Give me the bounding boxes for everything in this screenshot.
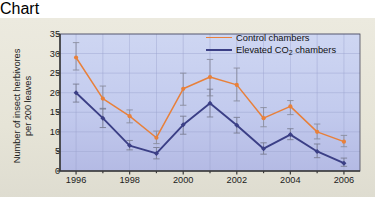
legend-label-elevated-subscript: 2: [289, 49, 293, 56]
x-axis-tick-label: 2004: [280, 175, 300, 185]
x-axis-tick-label: 1996: [66, 175, 86, 185]
legend-label-control: Control chambers: [236, 33, 309, 43]
legend-swatch-elevated-icon: [206, 49, 232, 51]
x-axis-tick-label: 2000: [173, 175, 193, 185]
x-axis-tick-label: 1998: [119, 175, 139, 185]
legend-label-elevated-prefix: Elevated CO: [236, 45, 289, 55]
x-axis-tick-label: 2006: [334, 175, 354, 185]
legend-swatch-control-icon: [206, 37, 232, 38]
legend-label-elevated-suffix: chambers: [293, 45, 336, 55]
x-axis-title: Year: [0, 194, 375, 197]
chart-legend: Control chambers Elevated CO2 chambers: [206, 32, 358, 56]
x-axis-tick-labels: 199619982000200220042006: [0, 175, 375, 191]
x-axis-tick-label: 2002: [227, 175, 247, 185]
chart-figure: Number of insect herbivores per 200 leav…: [0, 18, 375, 197]
legend-item-elevated: Elevated CO2 chambers: [206, 44, 358, 55]
legend-label-elevated: Elevated CO2 chambers: [236, 45, 336, 55]
legend-item-control: Control chambers: [206, 32, 358, 43]
